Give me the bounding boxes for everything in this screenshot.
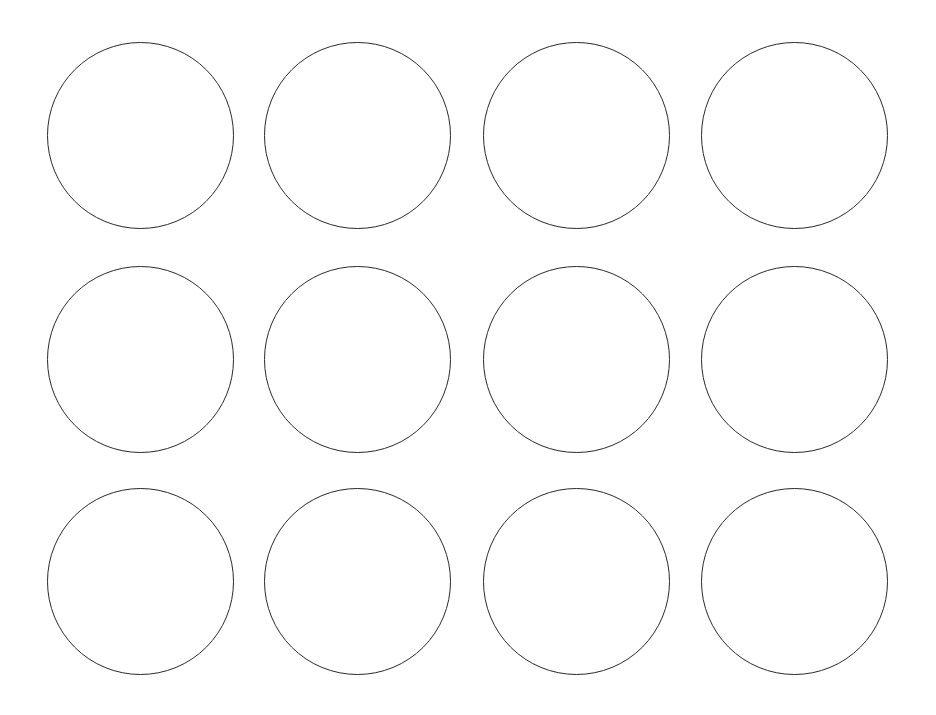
circle-outline [264,42,451,229]
circle-outline [483,42,670,229]
circle-outline [264,266,451,453]
circle-outline [483,266,670,453]
circle-outline [47,42,234,229]
circle-outline [47,488,234,675]
circle-outline [701,42,888,229]
circle-outline [701,488,888,675]
circle-outline [47,266,234,453]
circle-outline [483,488,670,675]
circle-template-sheet [0,0,936,715]
circle-outline [264,488,451,675]
circle-outline [701,266,888,453]
